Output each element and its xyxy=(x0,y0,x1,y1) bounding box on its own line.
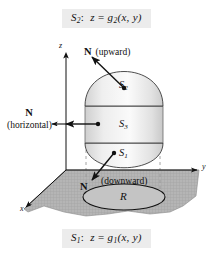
caption-bottom-arguments: (x, y) xyxy=(117,231,141,243)
surface-label-S2: S2 xyxy=(119,80,128,92)
caption-bottom-surface-equation: S1: z = g1(x, y) xyxy=(62,229,151,248)
normal-qualifier-upward: (upward) xyxy=(96,47,131,57)
caption-top-separator: : xyxy=(81,11,84,23)
y-axis-label: y xyxy=(202,163,206,171)
normal-symbol-upward: N xyxy=(84,46,92,57)
caption-top-z: z xyxy=(90,11,95,23)
surface-label-S3: S3 xyxy=(119,119,128,131)
normal-qualifier-horizontal: (horizontal) xyxy=(7,121,51,131)
caption-top-surface-equation: S2: z = g2(x, y) xyxy=(62,9,151,28)
surface-label-S1-subscript: 1 xyxy=(124,152,128,160)
z-axis-label: z xyxy=(59,42,62,50)
caption-bottom-equals: = xyxy=(98,231,105,243)
normal-symbol-downward: N xyxy=(80,181,88,192)
caption-top-equals: = xyxy=(98,11,105,23)
normal-label-horizontal: N (horizontal) xyxy=(7,108,51,130)
caption-bottom-z: z xyxy=(90,231,95,243)
normal-qualifier-downward: (downward) xyxy=(101,177,147,187)
x-axis-label: x xyxy=(20,205,24,213)
solid-region-diagram: S2: z = g2(x, y) S1: z = g1(x, y) z y x … xyxy=(0,0,217,254)
normal-symbol-downward-wrap: N xyxy=(80,177,88,193)
normal-symbol-horizontal: N xyxy=(7,108,51,119)
z-axis xyxy=(63,52,69,170)
caption-bottom-separator: : xyxy=(81,231,84,243)
region-label-R: R xyxy=(120,191,127,202)
surface-label-S3-subscript: 3 xyxy=(124,123,128,131)
surface-label-S1: S1 xyxy=(119,148,128,160)
normal-label-upward: N (upward) xyxy=(84,42,130,58)
surface-label-S2-subscript: 2 xyxy=(124,84,128,92)
caption-top-arguments: (x, y) xyxy=(117,11,141,23)
